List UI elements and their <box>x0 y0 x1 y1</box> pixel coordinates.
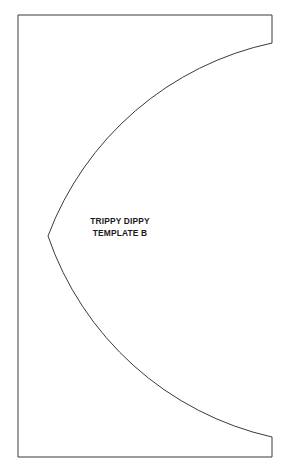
template-page: TRIPPY DIPPY TEMPLATE B <box>0 0 285 471</box>
template-label-line-1: TRIPPY DIPPY <box>60 216 180 228</box>
template-label-line-2: TEMPLATE B <box>60 228 180 240</box>
template-label: TRIPPY DIPPY TEMPLATE B <box>60 216 180 239</box>
